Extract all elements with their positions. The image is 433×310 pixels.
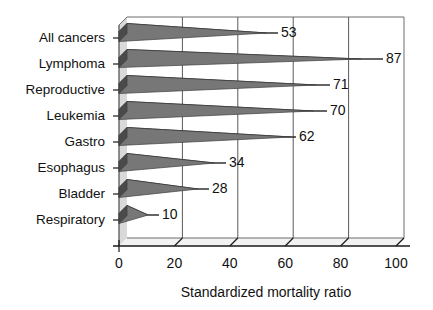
category-label: Esophagus <box>37 160 105 175</box>
category-label: Respiratory <box>36 212 105 227</box>
y-axis-ticks <box>113 38 119 220</box>
back-wall <box>127 17 404 238</box>
bar-value-label: 70 <box>330 102 346 118</box>
x-tick-label: 20 <box>167 255 183 271</box>
x-tick-label: 100 <box>384 255 408 271</box>
bar-value-label: 71 <box>333 76 349 92</box>
bar-value-label: 10 <box>162 206 178 222</box>
bar-value-label: 87 <box>386 50 402 66</box>
x-tick-label: 80 <box>333 255 349 271</box>
x-axis-title: Standardized mortality ratio <box>181 284 352 300</box>
x-tick-labels: 0 20 40 60 80 100 <box>115 255 408 271</box>
bar-value-label: 28 <box>212 180 228 196</box>
category-label: Lymphoma <box>39 56 106 71</box>
x-tick-label: 40 <box>222 255 238 271</box>
category-label: All cancers <box>39 30 105 45</box>
bar-value-label: 34 <box>229 154 245 170</box>
category-label: Bladder <box>58 186 105 201</box>
bar-value-label: 62 <box>299 128 315 144</box>
category-label: Reproductive <box>25 82 105 97</box>
category-label: Leukemia <box>46 108 105 123</box>
chart-container: 53 87 71 70 <box>0 0 433 310</box>
x-tick-label: 60 <box>277 255 293 271</box>
category-label: Gastro <box>64 134 105 149</box>
cone-bar-chart: 53 87 71 70 <box>0 0 433 310</box>
floor-face <box>119 238 404 246</box>
x-tick-label: 0 <box>115 255 123 271</box>
bar-value-label: 53 <box>281 24 297 40</box>
category-labels: All cancers Lymphoma Reproductive Leukem… <box>25 30 105 227</box>
